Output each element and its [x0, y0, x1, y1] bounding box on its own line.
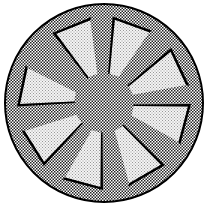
- hubcap-icon: [0, 0, 209, 207]
- hub-center: [83, 79, 131, 127]
- wheel-illustration: wheel-hubcap-illustration: [0, 0, 209, 207]
